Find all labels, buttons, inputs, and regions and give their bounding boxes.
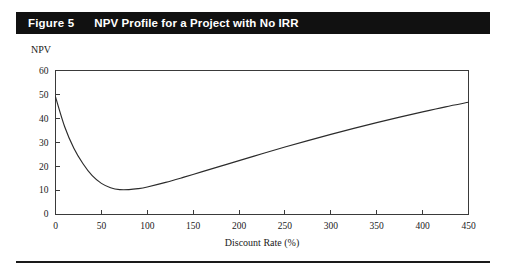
- y-axis-title: NPV: [31, 44, 52, 55]
- y-tick-label: 10: [39, 185, 49, 195]
- y-tick-label: 0: [44, 209, 49, 219]
- x-tick-label: 100: [140, 221, 155, 231]
- plot-frame: [56, 71, 469, 215]
- x-tick-label: 250: [278, 221, 293, 231]
- x-tick-label: 300: [324, 221, 339, 231]
- x-axis-title: Discount Rate (%): [225, 237, 299, 249]
- y-tick-label: 60: [39, 66, 49, 76]
- x-tick-label: 50: [97, 221, 107, 231]
- y-tick-label: 40: [39, 114, 49, 124]
- figure-caption-banner: Figure 5 NPV Profile for a Project with …: [16, 12, 490, 34]
- y-tick-label: 30: [39, 138, 49, 148]
- bottom-divider-rule: [16, 261, 490, 263]
- x-tick-label: 450: [461, 221, 476, 231]
- x-tick-label: 150: [186, 221, 201, 231]
- x-tick-label: 200: [232, 221, 247, 231]
- y-tick-label: 50: [39, 90, 49, 100]
- x-tick-label: 0: [53, 221, 58, 231]
- x-tick-label: 350: [370, 221, 385, 231]
- figure-number-label: Figure 5: [28, 17, 74, 29]
- x-tick-label: 400: [415, 221, 430, 231]
- npv-profile-chart: NPV 0102030405060 0501001502002503003504…: [0, 34, 515, 259]
- y-axis-ticks: 0102030405060: [39, 66, 60, 220]
- npv-curve: [56, 97, 469, 190]
- y-tick-label: 20: [39, 162, 49, 172]
- figure-title-label: NPV Profile for a Project with No IRR: [94, 17, 298, 29]
- chart-canvas: NPV 0102030405060 0501001502002503003504…: [0, 34, 515, 259]
- x-axis-ticks: 050100150200250300350400450: [53, 210, 476, 231]
